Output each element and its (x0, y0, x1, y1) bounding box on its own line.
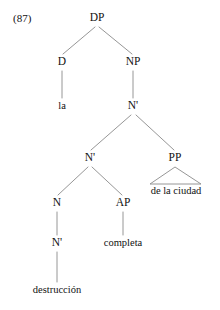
tree-node-dp: DP (90, 12, 105, 24)
tree-node-d: D (58, 56, 66, 68)
tree-leaf-destruccion: destrucción (33, 285, 81, 296)
tree-edge-dp-np (99, 27, 132, 54)
tree-edge-nbar2-n (58, 167, 88, 195)
tree-node-ap: AP (116, 197, 131, 209)
tree-node-nbar2: N' (85, 152, 95, 164)
tree-edge-dp-d (63, 27, 95, 54)
tree-leaf-la: la (58, 101, 66, 112)
tree-edge-nbar1-pp (136, 115, 174, 150)
pp-triangle (150, 167, 201, 184)
tree-edge-nbar2-ap (92, 167, 122, 195)
syntax-tree-figure: (87) DP D NP N' N' PP N AP N' la de la c… (0, 0, 220, 310)
tree-leaf-de-la-ciudad: de la ciudad (151, 186, 202, 197)
tree-node-pp: PP (169, 152, 182, 164)
tree-edge-nbar1-nbar2 (91, 115, 131, 150)
tree-node-n: N (53, 197, 61, 209)
tree-node-nbar1: N' (128, 100, 138, 112)
tree-branch-lines (0, 0, 220, 310)
tree-leaf-completa: completa (104, 238, 142, 249)
tree-node-nbar3: N' (52, 237, 62, 249)
tree-node-np: NP (126, 56, 141, 68)
